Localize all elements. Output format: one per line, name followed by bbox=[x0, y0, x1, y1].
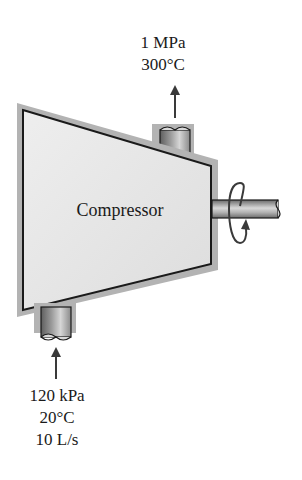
outlet-conditions: 1 MPa 300°C bbox=[113, 32, 213, 76]
inlet-conditions: 120 kPa 20°C 10 L/s bbox=[7, 385, 107, 451]
inlet-pressure: 120 kPa bbox=[7, 385, 107, 407]
inlet-pipe bbox=[34, 303, 76, 340]
inlet-arrow-up-icon bbox=[51, 347, 61, 379]
inlet-flow-rate: 10 L/s bbox=[7, 429, 107, 451]
outlet-pressure: 1 MPa bbox=[113, 32, 213, 54]
inlet-temperature: 20°C bbox=[7, 407, 107, 429]
compressor-diagram: Compressor 1 MPa 300°C 120 kPa 20°C 10 L… bbox=[0, 0, 302, 480]
shaft-body bbox=[212, 200, 278, 218]
outlet-arrow-up-icon bbox=[170, 85, 180, 118]
inlet-pipe-body bbox=[41, 307, 71, 337]
drive-shaft bbox=[212, 200, 280, 218]
compressor-label: Compressor bbox=[55, 200, 185, 221]
outlet-temperature: 300°C bbox=[113, 54, 213, 76]
